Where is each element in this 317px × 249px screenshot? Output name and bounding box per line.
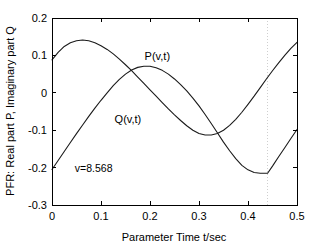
- x-tick-label-3: 0.3: [191, 210, 206, 222]
- pfr-line-chart: 00.10.20.30.40.5 -0.3-0.2-0.100.10.2 Par…: [0, 0, 317, 249]
- x-tick-label-0: 0: [49, 210, 55, 222]
- plot-background: [52, 18, 297, 205]
- y-tick-label-1: -0.2: [28, 162, 47, 174]
- y-tick-label-3: 0: [41, 87, 47, 99]
- y-axis-title: PFR: Real part P, Imaginary part Q: [4, 26, 16, 196]
- annotation-pvt: P(v,t): [145, 50, 170, 62]
- annotation-qvt: Q(v,t): [115, 113, 142, 125]
- x-axis-tick-labels: 00.10.20.30.40.5: [49, 210, 305, 222]
- y-tick-label-0: -0.3: [28, 199, 47, 211]
- x-tick-label-2: 0.2: [142, 210, 157, 222]
- x-tick-label-5: 0.5: [289, 210, 304, 222]
- y-tick-label-2: -0.1: [28, 124, 47, 136]
- x-axis-title: Parameter Time t/sec: [122, 231, 227, 243]
- x-tick-label-1: 0.1: [93, 210, 108, 222]
- annotation-v8568: v=8.568: [75, 162, 113, 174]
- y-tick-label-4: 0.1: [32, 49, 47, 61]
- x-tick-label-4: 0.4: [240, 210, 255, 222]
- y-axis-tick-labels: -0.3-0.2-0.100.10.2: [28, 12, 47, 211]
- y-tick-label-5: 0.2: [32, 12, 47, 24]
- figure-container: 00.10.20.30.40.5 -0.3-0.2-0.100.10.2 Par…: [0, 0, 317, 249]
